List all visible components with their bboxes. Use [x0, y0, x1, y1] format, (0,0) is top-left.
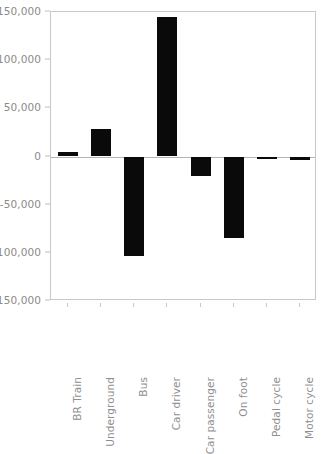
y-axis: 150,000100,00050,0000-50,000-100,000-150… — [0, 0, 50, 380]
x-tick-label: BR Train — [71, 377, 83, 421]
y-tick-label: 0 — [34, 150, 41, 162]
y-tick-label: 150,000 — [0, 5, 41, 17]
bars-layer — [51, 12, 315, 299]
x-tick-label: On foot — [237, 377, 249, 417]
bar — [257, 157, 277, 160]
bar — [290, 157, 310, 160]
bar — [191, 157, 211, 176]
bar — [157, 17, 177, 157]
x-tick-label: Car driver — [170, 377, 182, 430]
x-tick-label: Pedal cycle — [270, 377, 282, 437]
x-axis: BR TrainUndergroundBusCar driverCar pass… — [50, 303, 316, 380]
x-tick-mark — [100, 303, 101, 307]
bar — [91, 129, 111, 157]
y-tick-label: -100,000 — [0, 246, 41, 258]
x-tick-mark — [200, 303, 201, 307]
x-tick-label: Car passenger — [204, 377, 216, 454]
y-tick-label: 100,000 — [0, 53, 41, 65]
x-tick-label: Underground — [104, 377, 116, 447]
x-tick-mark — [266, 303, 267, 307]
bar — [224, 157, 244, 239]
bar — [124, 157, 144, 256]
y-tick-label: 50,000 — [4, 101, 41, 113]
x-tick-mark — [67, 303, 68, 307]
plot-area — [50, 11, 316, 300]
x-tick-mark — [233, 303, 234, 307]
y-tick-label: -150,000 — [0, 294, 41, 306]
x-tick-mark — [166, 303, 167, 307]
x-tick-mark — [299, 303, 300, 307]
y-tick-label: -50,000 — [0, 198, 41, 210]
x-tick-label: Bus — [137, 377, 149, 397]
bar — [58, 152, 78, 157]
x-tick-mark — [133, 303, 134, 307]
x-tick-label: Motor cycle — [303, 377, 315, 439]
